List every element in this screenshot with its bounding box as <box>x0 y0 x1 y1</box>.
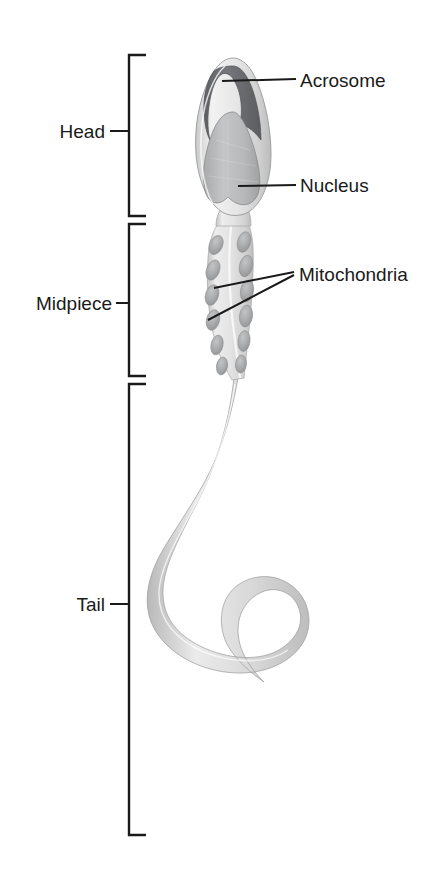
bracket-midpiece <box>116 224 146 376</box>
leader-nucleus <box>238 185 296 186</box>
diagram-canvas: Head Midpiece Tail Acrosome Nucleus Mito… <box>0 0 444 871</box>
tail-flagellum <box>147 378 309 682</box>
callout-label-acrosome: Acrosome <box>300 70 386 91</box>
callout-label-mitochondria: Mitochondria <box>299 264 408 285</box>
bracket-label-midpiece: Midpiece <box>36 293 112 314</box>
callout-label-nucleus: Nucleus <box>300 175 369 196</box>
tail-structure <box>147 378 309 682</box>
bracket-label-head: Head <box>60 121 105 142</box>
bracket-group <box>110 55 146 835</box>
bracket-head <box>110 55 146 216</box>
bracket-label-tail: Tail <box>76 594 105 615</box>
midpiece-structure <box>203 223 255 380</box>
bracket-tail <box>110 384 146 835</box>
sperm-cell-diagram: Head Midpiece Tail Acrosome Nucleus Mito… <box>0 0 444 871</box>
